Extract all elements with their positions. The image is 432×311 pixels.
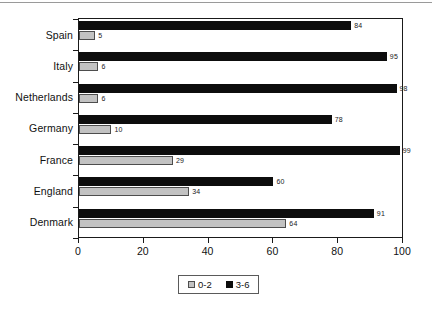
bar-3-6 <box>79 52 387 61</box>
category-label: Netherlands <box>0 82 73 113</box>
value-axis-tick <box>402 238 403 243</box>
legend-item-0-2: 0-2 <box>188 279 212 290</box>
category-axis-tick <box>73 144 78 145</box>
value-axis-label: 60 <box>267 245 279 257</box>
bar-group: 9929 <box>79 144 403 175</box>
bar-0-2 <box>79 31 95 40</box>
value-axis-tick <box>272 238 273 243</box>
value-axis-tick <box>208 238 209 243</box>
value-axis-label: 20 <box>137 245 149 257</box>
chart-legend: 0-2 3-6 <box>178 275 259 294</box>
bar-value-label: 5 <box>98 31 102 40</box>
bar-value-label: 95 <box>390 52 398 61</box>
gray-swatch-icon <box>188 281 195 288</box>
value-axis-tick <box>78 238 79 243</box>
bar-3-6 <box>79 177 273 186</box>
bar-0-2 <box>79 94 98 103</box>
bar-group: 7810 <box>79 113 403 144</box>
category-label: Germany <box>0 113 73 144</box>
bar-value-label: 6 <box>101 94 105 103</box>
value-axis-label: 100 <box>393 245 411 257</box>
category-axis-tick <box>73 82 78 83</box>
category-axis-tick <box>73 113 78 114</box>
value-axis-tick <box>143 238 144 243</box>
bar-value-label: 64 <box>289 219 297 228</box>
page-scan-line <box>0 2 432 3</box>
bar-value-label: 6 <box>101 62 105 71</box>
bar-0-2 <box>79 62 98 71</box>
bar-group: 956 <box>79 50 403 81</box>
category-axis-tick <box>73 175 78 176</box>
bar-0-2 <box>79 125 111 134</box>
category-axis-tick <box>73 50 78 51</box>
bar-3-6 <box>79 115 332 124</box>
bar-0-2 <box>79 187 189 196</box>
bar-value-label: 91 <box>377 209 385 218</box>
category-label: Denmark <box>0 207 73 238</box>
bar-3-6 <box>79 21 351 30</box>
bar-value-label: 84 <box>354 21 362 30</box>
bar-3-6 <box>79 209 374 218</box>
bar-3-6 <box>79 84 397 93</box>
bar-value-label: 60 <box>276 177 284 186</box>
bar-series-container: 8459569867810992960349164 <box>79 19 403 238</box>
bar-group: 845 <box>79 19 403 50</box>
category-axis-tick <box>73 19 78 20</box>
category-label: Spain <box>0 19 73 50</box>
category-axis-tick <box>73 207 78 208</box>
bar-group: 9164 <box>79 207 403 238</box>
category-axis-labels: Spain Italy Netherlands Germany France E… <box>0 19 73 238</box>
value-axis-label: 0 <box>75 245 81 257</box>
legend-label: 0-2 <box>198 279 212 290</box>
bar-3-6 <box>79 146 400 155</box>
legend-label: 3-6 <box>236 279 250 290</box>
bar-value-label: 78 <box>335 115 343 124</box>
bar-group: 986 <box>79 82 403 113</box>
bar-value-label: 98 <box>400 84 408 93</box>
bar-group: 6034 <box>79 175 403 206</box>
category-label: France <box>0 144 73 175</box>
value-axis-label: 40 <box>202 245 214 257</box>
black-swatch-icon <box>226 281 233 288</box>
bar-0-2 <box>79 156 173 165</box>
legend-item-3-6: 3-6 <box>226 279 250 290</box>
category-label: England <box>0 175 73 206</box>
value-axis-label: 80 <box>331 245 343 257</box>
bar-value-label: 29 <box>176 156 184 165</box>
bar-value-label: 34 <box>192 187 200 196</box>
bar-value-label: 10 <box>114 125 122 134</box>
value-axis-tick <box>337 238 338 243</box>
category-label: Italy <box>0 50 73 81</box>
bar-value-label: 99 <box>403 146 411 155</box>
bar-0-2 <box>79 219 286 228</box>
bar-chart-figure: Spain Italy Netherlands Germany France E… <box>0 0 432 311</box>
